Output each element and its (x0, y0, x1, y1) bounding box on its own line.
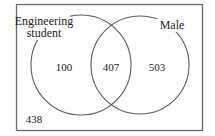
region-value-only-male: 503 (149, 61, 166, 73)
venn-diagram: Engineering student Male 100 407 503 438 (0, 0, 215, 136)
set-label-male: Male (160, 18, 185, 32)
set-label-engineering-line2: student (27, 26, 62, 40)
region-value-neither: 438 (26, 113, 43, 125)
region-value-both: 407 (103, 61, 120, 73)
region-value-only-engineering: 100 (56, 61, 73, 73)
